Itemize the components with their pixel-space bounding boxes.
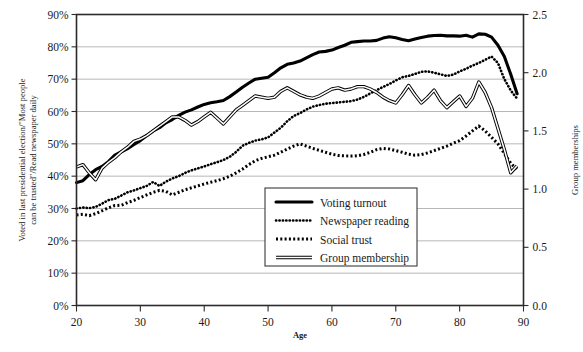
y-axis-right-tick-label: 2.0	[533, 67, 548, 79]
y-axis-right-tick-label: 1.5	[533, 125, 548, 137]
x-axis-tick-label: 90	[518, 316, 530, 328]
y-axis-left-tick-label: 70%	[47, 73, 69, 85]
legend-label-social-trust: Social trust	[320, 234, 373, 246]
y-axis-right-tick-label: 0.0	[533, 300, 548, 312]
chart-container: 0%10%20%30%40%50%60%70%80%90% 0.00.51.01…	[0, 0, 583, 352]
x-axis-tick-label: 40	[198, 316, 210, 328]
y-axis-left-title-line1: Voted in last presidential election/"Mos…	[17, 78, 27, 241]
y-axis-left-tick-label: 90%	[47, 9, 69, 21]
y-axis-left-tick-label: 60%	[47, 106, 69, 118]
chart-legend: Voting turnoutNewspaper readingSocial tr…	[265, 188, 417, 266]
x-axis-tick-label: 80	[454, 316, 466, 328]
age-civic-engagement-line-chart: 0%10%20%30%40%50%60%70%80%90% 0.00.51.01…	[0, 0, 583, 352]
legend-label-group-membership: Group membership	[320, 252, 409, 265]
y-axis-left-tick-label: 0%	[53, 300, 69, 312]
x-axis-tick-label: 30	[135, 316, 147, 328]
y-axis-right-tick-label: 0.5	[533, 241, 548, 253]
y-axis-left-tick-label: 50%	[47, 138, 69, 150]
y-axis-left-tick-label: 80%	[47, 41, 69, 53]
legend-label-voting-turnout: Voting turnout	[320, 197, 387, 210]
legend-label-newspaper-reading: Newspaper reading	[320, 215, 409, 228]
y-axis-left-tick-label: 30%	[47, 203, 69, 215]
y-axis-left-tick-label: 10%	[47, 267, 69, 279]
y-axis-right-title: Group memberships	[570, 124, 580, 195]
x-axis-title: Age	[293, 330, 307, 340]
y-axis-left-tick-label: 40%	[47, 170, 69, 182]
y-axis-right-tick-label: 2.5	[533, 9, 548, 21]
x-axis-tick-label: 60	[326, 316, 338, 328]
y-axis-left-title-line2: can be trusted"/Read newspaper daily	[28, 95, 38, 225]
y-axis-left-tick-label: 20%	[47, 235, 69, 247]
x-axis-tick-label: 50	[262, 316, 274, 328]
x-axis-tick-label: 20	[71, 316, 83, 328]
y-axis-right-tick-label: 1.0	[533, 183, 548, 195]
x-axis-tick-label: 70	[390, 316, 402, 328]
